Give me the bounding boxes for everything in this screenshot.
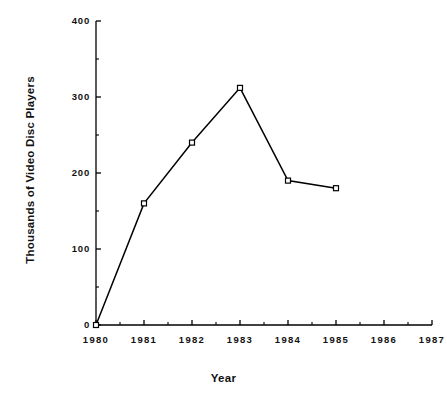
y-axis-tick-label: 100 (48, 243, 90, 254)
x-axis-tick-label: 1980 (76, 334, 116, 345)
data-line-series (96, 88, 336, 325)
data-point-marker (334, 186, 339, 191)
x-axis-tick-label: 1984 (268, 334, 308, 345)
data-point-markers (94, 85, 339, 327)
y-axis-tick-label: 300 (48, 91, 90, 102)
y-axis-ticks (96, 21, 101, 325)
chart-figure: Thousands of Video Disc Players 19801981… (0, 0, 447, 397)
x-axis-tick-label: 1981 (124, 334, 164, 345)
data-point-marker (94, 323, 99, 328)
y-axis-title: Thousands of Video Disc Players (24, 76, 36, 264)
x-axis-tick-label: 1985 (316, 334, 356, 345)
y-axis-title-container: Thousands of Video Disc Players (10, 0, 50, 340)
data-point-marker (286, 178, 291, 183)
x-axis-title: Year (0, 372, 447, 384)
x-axis-tick-label: 1986 (364, 334, 404, 345)
data-point-marker (142, 201, 147, 206)
y-axis-tick-label: 0 (48, 319, 90, 330)
x-axis-ticks (96, 320, 432, 325)
y-axis-tick-label: 200 (48, 167, 90, 178)
x-axis-tick-label: 1982 (172, 334, 212, 345)
x-axis-tick-label: 1987 (412, 334, 447, 345)
y-axis-tick-label: 400 (48, 15, 90, 26)
data-point-marker (238, 85, 243, 90)
axes-lines (96, 21, 432, 325)
data-point-marker (190, 140, 195, 145)
x-axis-tick-label: 1983 (220, 334, 260, 345)
